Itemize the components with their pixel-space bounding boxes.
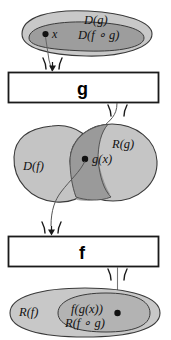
label-domain-f: D(f): [23, 160, 44, 173]
point-x-dot: [42, 31, 48, 37]
label-range-g: R(g): [112, 138, 134, 151]
label-box-f: f: [79, 244, 85, 262]
label-box-g: g: [77, 80, 88, 98]
function-composition-diagram: D(g) D(f ∘ g) x g D(f) R(g) g(x) f R(f) …: [0, 0, 171, 340]
label-domain-composition: D(f ∘ g): [78, 29, 119, 42]
point-fgx-dot: [114, 310, 120, 316]
label-domain-g: D(g): [84, 14, 108, 27]
label-range-f: R(f): [19, 306, 38, 319]
label-point-x: x: [52, 28, 57, 40]
label-range-composition: R(f ∘ g): [65, 317, 105, 330]
outlet-arrow-g: [108, 105, 127, 116]
label-point-fgx: f(g(x)): [71, 303, 103, 316]
inlet-arrow-g: [43, 58, 62, 72]
label-point-gx: g(x): [92, 153, 112, 166]
